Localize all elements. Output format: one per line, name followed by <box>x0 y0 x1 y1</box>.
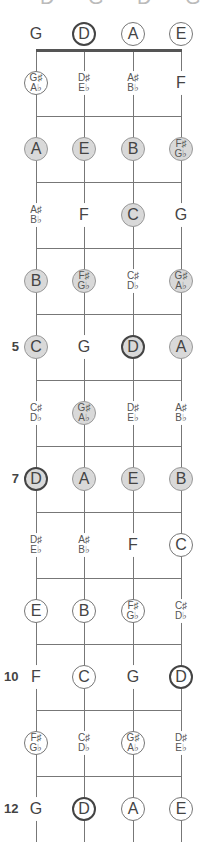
fret-number: 7 <box>5 471 19 486</box>
note-flat-label: D♭ <box>30 413 42 423</box>
note-marker: A♯B♭ <box>121 71 145 95</box>
note-label: E <box>176 801 187 817</box>
note-flat-label: E♭ <box>175 743 187 753</box>
note-marker: C <box>121 203 145 227</box>
note-flat-label: G♭ <box>175 149 188 159</box>
note-flat-label: A♭ <box>30 83 42 93</box>
note-flat-label: B♭ <box>78 545 90 555</box>
note-marker: F♯G♭ <box>72 269 96 293</box>
note-marker: G♯A♭ <box>121 731 145 755</box>
note-flat-label: A♭ <box>127 743 139 753</box>
note-marker: C♯D♭ <box>169 599 193 623</box>
note-marker: B <box>169 467 193 491</box>
note-label: A <box>79 471 90 487</box>
fret-line <box>36 248 182 249</box>
note-label: A <box>31 141 42 157</box>
note-marker: C <box>169 533 193 557</box>
note-label: F <box>31 669 41 685</box>
note-label: D <box>175 669 187 685</box>
note-marker: F <box>121 533 145 557</box>
nut <box>36 49 182 52</box>
fret-line <box>36 446 182 447</box>
note-marker: E <box>24 599 48 623</box>
note-marker: G♯A♭ <box>169 269 193 293</box>
note-label: F <box>79 207 89 223</box>
note-flat-label: E♭ <box>78 83 90 93</box>
note-flat-label: B♭ <box>175 413 187 423</box>
tuning-title: D G D G B D <box>40 0 200 6</box>
note-marker: D♯E♭ <box>169 731 193 755</box>
note-marker: E <box>72 137 96 161</box>
note-marker: D <box>24 467 48 491</box>
note-marker: D♯E♭ <box>121 401 145 425</box>
note-flat-label: D♭ <box>175 611 187 621</box>
note-flat-label: E♭ <box>30 545 42 555</box>
note-marker: C <box>24 335 48 359</box>
note-marker: D <box>72 797 96 821</box>
fret-line <box>36 776 182 777</box>
note-label: C <box>30 339 42 355</box>
note-label: E <box>79 141 90 157</box>
note-marker: G <box>72 335 96 359</box>
note-marker: D♯E♭ <box>24 533 48 557</box>
note-marker: F♯G♭ <box>121 599 145 623</box>
fret-line <box>36 182 182 183</box>
note-marker: A <box>24 137 48 161</box>
note-label: A <box>176 339 187 355</box>
note-marker: C♯D♭ <box>121 269 145 293</box>
fret-line <box>36 578 182 579</box>
fret-line <box>36 512 182 513</box>
note-label: G <box>175 207 187 223</box>
note-label: G <box>30 26 42 42</box>
note-marker: D <box>169 665 193 689</box>
note-flat-label: G♭ <box>78 281 91 291</box>
note-marker: A <box>121 22 145 46</box>
note-marker: D♯E♭ <box>72 71 96 95</box>
note-label: D <box>127 339 139 355</box>
note-marker: C <box>72 665 96 689</box>
note-flat-label: G♭ <box>127 611 140 621</box>
note-flat-label: B♭ <box>30 215 42 225</box>
note-label: E <box>31 603 42 619</box>
note-label: A <box>128 26 139 42</box>
note-flat-label: A♭ <box>175 281 187 291</box>
note-label: C <box>175 537 187 553</box>
note-marker: D <box>121 335 145 359</box>
fret-number: 5 <box>5 339 19 354</box>
note-label: F <box>128 537 138 553</box>
note-marker: B <box>72 599 96 623</box>
note-flat-label: D♭ <box>78 743 90 753</box>
note-marker: F♯G♭ <box>169 137 193 161</box>
note-marker: A♯B♭ <box>24 203 48 227</box>
note-marker: G♯A♭ <box>24 71 48 95</box>
note-label: B <box>176 471 187 487</box>
note-label: C <box>127 207 139 223</box>
note-label: E <box>128 471 139 487</box>
fret-line <box>36 380 182 381</box>
note-marker: G <box>121 665 145 689</box>
note-marker: F♯G♭ <box>24 731 48 755</box>
note-marker: C♯D♭ <box>24 401 48 425</box>
note-marker: A <box>72 467 96 491</box>
note-marker: F <box>72 203 96 227</box>
note-label: D <box>30 471 42 487</box>
note-marker: G <box>24 22 48 46</box>
note-marker: C♯D♭ <box>72 731 96 755</box>
note-marker: D <box>72 22 96 46</box>
fret-line <box>36 116 182 117</box>
fret-number: 10 <box>4 669 18 684</box>
note-label: D <box>78 26 90 42</box>
note-flat-label: B♭ <box>127 83 139 93</box>
note-marker: A♯B♭ <box>72 533 96 557</box>
note-marker: G♯A♭ <box>72 401 96 425</box>
note-marker: E <box>169 797 193 821</box>
note-marker: B <box>24 269 48 293</box>
fret-number: 12 <box>4 801 18 816</box>
note-marker: A <box>169 335 193 359</box>
note-label: E <box>176 26 187 42</box>
note-label: G <box>30 801 42 817</box>
note-label: A <box>128 801 139 817</box>
note-flat-label: E♭ <box>127 413 139 423</box>
note-flat-label: D♭ <box>127 281 139 291</box>
note-label: F <box>176 75 186 91</box>
